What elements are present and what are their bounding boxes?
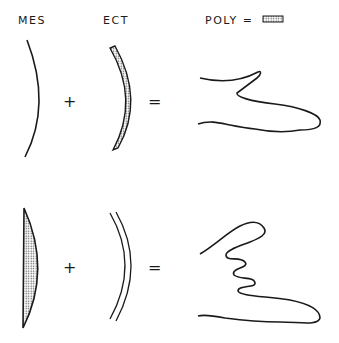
plus-sign-row1: + (63, 92, 76, 111)
equals-sign-row1: = (148, 92, 161, 111)
poly-shape-row1 (198, 72, 320, 132)
equals-sign-row2: = (148, 258, 161, 277)
ect-arc-row1 (110, 46, 131, 150)
ect-label: ECT (103, 14, 129, 27)
poly-shape-row2 (198, 222, 320, 323)
ect-arc-row2-outer (110, 213, 125, 319)
ect-arc-row2-inner (116, 212, 131, 321)
poly-legend-symbol (263, 16, 283, 22)
poly-label: POLY = (205, 14, 253, 27)
mes-label: MES (18, 14, 46, 27)
mes-arc-row1 (25, 40, 39, 157)
plus-sign-row2: + (63, 258, 76, 277)
diagram-canvas (0, 0, 339, 343)
mes-lens-row2 (23, 208, 38, 328)
